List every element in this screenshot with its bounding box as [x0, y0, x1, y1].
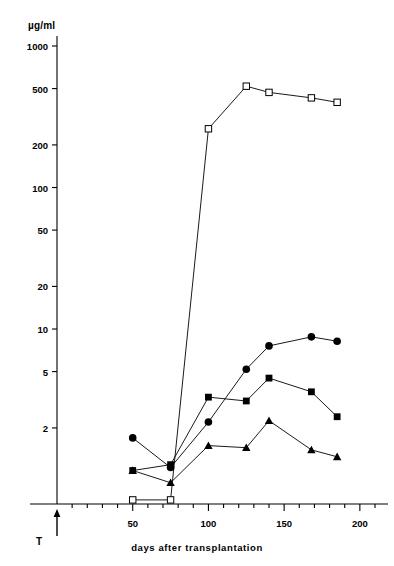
- x-tick-label: 200: [352, 518, 368, 529]
- y-tick-label: 1000: [0, 41, 48, 52]
- series-group: [129, 83, 342, 503]
- series-line-filled-triangles: [133, 421, 337, 483]
- data-point-filled-square: [243, 398, 250, 405]
- axes-group: [30, 36, 388, 511]
- data-point-open-square: [243, 83, 249, 89]
- transplant-arrow-head: [54, 509, 61, 517]
- data-point-filled-square: [205, 394, 212, 401]
- x-tick-label: 150: [276, 518, 292, 529]
- series-filled-triangles: [129, 416, 342, 486]
- y-tick-label: 200: [0, 139, 48, 150]
- series-open-squares: [130, 83, 341, 503]
- data-point-filled-square: [334, 413, 341, 420]
- y-tick-label: 2: [0, 422, 48, 433]
- y-tick-label: 100: [0, 182, 48, 193]
- data-point-filled-circle: [265, 342, 273, 350]
- data-point-filled-square: [308, 388, 315, 395]
- data-point-filled-circle: [205, 418, 213, 426]
- data-point-filled-triangle: [265, 416, 273, 424]
- chart-figure: µg/ml 100050020010050201052 50100150200 …: [0, 0, 394, 566]
- data-point-filled-triangle: [204, 441, 212, 449]
- data-point-open-square: [266, 89, 272, 95]
- x-tick-label: 100: [200, 518, 216, 529]
- series-filled-squares: [129, 375, 340, 474]
- data-point-open-square: [334, 99, 340, 105]
- x-axis-title: days after transplantation: [0, 542, 394, 553]
- data-point-open-square: [308, 95, 314, 101]
- data-point-filled-circle: [308, 333, 316, 341]
- y-tick-label: 20: [0, 281, 48, 292]
- annotation-group: [54, 509, 61, 536]
- plot-canvas: [0, 0, 394, 566]
- y-tick-label: 10: [0, 324, 48, 335]
- data-point-open-square: [167, 497, 173, 503]
- data-point-filled-circle: [129, 434, 137, 442]
- y-axis-unit-label: µg/ml: [28, 20, 55, 31]
- x-tick-label: 50: [127, 518, 138, 529]
- data-point-filled-circle: [333, 337, 341, 345]
- data-point-filled-square: [167, 461, 174, 468]
- y-tick-label: 500: [0, 83, 48, 94]
- data-point-open-square: [130, 497, 136, 503]
- data-point-filled-square: [266, 375, 273, 382]
- series-line-filled-circles: [133, 337, 337, 468]
- series-line-open-squares: [133, 86, 337, 500]
- y-tick-label: 5: [0, 366, 48, 377]
- data-point-filled-circle: [242, 365, 250, 373]
- series-line-filled-squares: [133, 378, 337, 470]
- data-point-open-square: [205, 126, 211, 132]
- y-tick-label: 50: [0, 225, 48, 236]
- data-point-filled-triangle: [307, 446, 315, 454]
